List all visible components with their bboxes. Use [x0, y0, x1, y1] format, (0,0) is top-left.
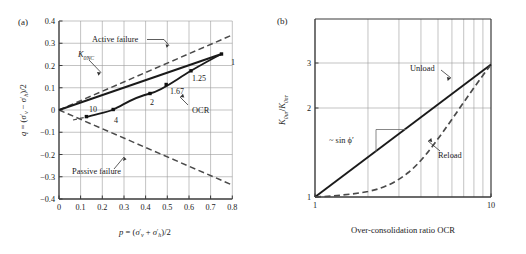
y-tick-label: 0.3: [45, 39, 55, 48]
x-tick-label: 0.5: [162, 203, 172, 212]
reload-annotation: Reload: [428, 138, 463, 160]
panel-b-y-tick-labels: 1 2 3: [307, 59, 311, 202]
ocr-label-10: 10: [89, 105, 97, 114]
k0nc-arrowhead: [97, 72, 101, 76]
passive-failure-annotation: Passive failure: [72, 157, 127, 176]
y-tick-label: −0.2: [40, 151, 55, 160]
ocr-leader: [180, 97, 188, 105]
ocr-marker: [85, 115, 88, 118]
panel-b-tag: (b): [277, 16, 288, 26]
x-tick-label: 1: [313, 201, 317, 210]
panel-a-y-tick-labels: 0.4 0.3 0.2 0.1 0 −0.1 −0.2 −0.3 −0.4: [40, 17, 55, 204]
y-tick-label: −0.1: [40, 128, 55, 137]
panel-a-tag: (a): [18, 17, 28, 27]
panel-a-stress-path-chart: (a): [0, 0, 263, 254]
slope-annotation-label: ~ sin ϕ′: [329, 136, 354, 145]
y-tick-label: 3: [307, 59, 311, 68]
ocr-marker: [189, 69, 192, 72]
unload-leader: [441, 70, 451, 78]
y-label-eq: = (: [18, 119, 28, 131]
x-tick-label: 0: [57, 203, 61, 212]
x-tick-label: 0.2: [97, 203, 107, 212]
x-tick-label: 0.1: [75, 203, 85, 212]
panel-b-y-axis-label: K0ur/K0nr: [277, 94, 289, 126]
panel-a-x-tick-labels: 0 0.1 0.2 0.3 0.4 0.5 0.6 0.7 0.8: [57, 203, 237, 212]
unload-annotation: Unload: [410, 64, 451, 81]
k0nc-subscript-text: 0NC: [84, 55, 95, 61]
active-failure-annotation-label: Active failure: [92, 35, 139, 44]
passive-failure-annotation-label: Passive failure: [72, 167, 121, 176]
ocr-marker: [220, 52, 223, 55]
panel-b-x-axis-label: Over-consolidation ratio OCR: [351, 225, 455, 235]
ocr-label-2: 2: [150, 98, 154, 107]
panel-a-y-axis-label: q = (σ′v − σ′h)/2: [18, 84, 29, 136]
k0nc-annotation-label: K0NC: [77, 50, 94, 61]
ocr-marker: [148, 92, 151, 95]
ocr-label-4: 4: [114, 116, 118, 125]
ocr-marker: [112, 108, 115, 111]
reload-annotation-label: Reload: [438, 151, 463, 160]
x-label-tail: )/2: [161, 227, 171, 237]
panel-a-svg: (a): [0, 0, 263, 254]
y-label-tail: )/2: [18, 84, 28, 94]
y-tick-label: −0.4: [40, 195, 55, 204]
y-tick-label: 0: [51, 106, 55, 115]
y-tick-label: 0.1: [45, 84, 55, 93]
ocr-label-1_67: 1.67: [170, 87, 184, 96]
unload-annotation-label: Unload: [410, 64, 435, 73]
panel-b-x-tick-labels: 1 10: [313, 201, 495, 210]
x-label-eq: = (: [123, 227, 135, 237]
y-tick-label: 0.2: [45, 62, 55, 71]
y-tick-label: −0.3: [40, 173, 55, 182]
panel-a-x-axis-label: p = (σ′v + σ′h)/2: [118, 227, 171, 238]
ocr-marker: [165, 83, 168, 86]
ocr-annotation: OCR: [180, 94, 210, 115]
panel-b-svg: (b): [263, 0, 526, 254]
x-tick-label: 0.4: [140, 203, 150, 212]
y-tick-label: 0.4: [45, 17, 55, 26]
active-failure-leader-arrow: [164, 40, 169, 46]
y-tick-label: 1: [307, 193, 311, 202]
ocr-label-1: 1: [231, 58, 235, 67]
x-tick-label: 0.6: [184, 203, 194, 212]
x-tick-label: 0.8: [227, 203, 237, 212]
y-label-minus: −: [18, 102, 28, 111]
ocr-label-1_25: 1.25: [192, 74, 206, 83]
k0nc-leader: [89, 60, 101, 73]
x-label-plus: +: [144, 227, 153, 237]
ocr-annotation-label: OCR: [192, 106, 210, 115]
x-tick-label: 0.7: [205, 203, 215, 212]
x-tick-label: 10: [487, 201, 495, 210]
x-tick-label: 0.3: [119, 203, 129, 212]
y-label-sub-nr: 0nr: [283, 94, 289, 103]
panel-b-k0-ratio-chart: (b): [263, 0, 526, 254]
y-tick-label: 2: [307, 104, 311, 113]
